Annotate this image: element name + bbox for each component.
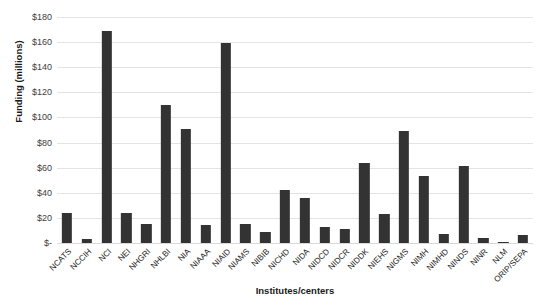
y-axis-tick-label: $140 <box>0 62 52 72</box>
bar <box>240 224 250 243</box>
bar <box>458 166 468 243</box>
bar <box>399 131 409 243</box>
y-axis-tick-label: $20 <box>0 213 52 223</box>
bar <box>260 232 270 243</box>
bar-chart: Funding (millions) $-$20$40$60$80$100$12… <box>0 0 540 307</box>
bar <box>419 176 429 243</box>
bar-slot <box>454 17 474 243</box>
bar <box>82 239 92 243</box>
y-axis-tick-label: $40 <box>0 188 52 198</box>
bar-slot <box>434 17 454 243</box>
bar <box>181 129 191 243</box>
y-axis-tick-label: $100 <box>0 112 52 122</box>
bar <box>339 229 349 243</box>
bar-slot <box>196 17 216 243</box>
bar-slot <box>255 17 275 243</box>
y-axis-tick-label: $- <box>0 238 52 248</box>
bar <box>220 43 230 243</box>
bar <box>62 213 72 243</box>
y-axis-tick-label: $80 <box>0 138 52 148</box>
bar-slot <box>236 17 256 243</box>
bar <box>439 234 449 243</box>
bar-slot <box>374 17 394 243</box>
bar-slot <box>513 17 533 243</box>
bar-slot <box>275 17 295 243</box>
x-axis-tick-label: NEI <box>117 247 133 263</box>
bar-slot <box>136 17 156 243</box>
bar-slot <box>315 17 335 243</box>
bar <box>141 224 151 243</box>
bar-slot <box>394 17 414 243</box>
bar <box>101 31 111 243</box>
bar-slot <box>414 17 434 243</box>
bar <box>359 163 369 243</box>
bar <box>121 213 131 243</box>
plot-area: $-$20$40$60$80$100$120$140$160$180 <box>57 17 533 243</box>
bar-slot <box>57 17 77 243</box>
bar-slot <box>156 17 176 243</box>
x-axis-title: Institutes/centers <box>57 285 533 296</box>
bar-slot <box>117 17 137 243</box>
bar <box>379 214 389 243</box>
bar-slot <box>97 17 117 243</box>
x-axis-tick-label: NCI <box>97 247 113 263</box>
bar-slot <box>216 17 236 243</box>
y-axis-tick-label: $120 <box>0 87 52 97</box>
x-axis-tick-label: NIA <box>176 247 192 263</box>
bar <box>478 238 488 243</box>
bar-series <box>57 17 533 243</box>
bar <box>280 190 290 243</box>
bar <box>201 225 211 243</box>
bar <box>498 242 508 244</box>
bar <box>320 227 330 243</box>
y-axis-tick-label: $160 <box>0 37 52 47</box>
bar <box>300 198 310 243</box>
bar-slot <box>493 17 513 243</box>
bar <box>518 235 528 243</box>
x-axis-tick-label: NCATS <box>48 247 74 273</box>
bar-slot <box>295 17 315 243</box>
bar-slot <box>176 17 196 243</box>
bar-slot <box>77 17 97 243</box>
bar-slot <box>335 17 355 243</box>
bar-slot <box>474 17 494 243</box>
y-axis-tick-label: $60 <box>0 163 52 173</box>
gridline: $- <box>57 243 533 244</box>
bar <box>161 105 171 243</box>
bar-slot <box>355 17 375 243</box>
y-axis-tick-label: $180 <box>0 12 52 22</box>
